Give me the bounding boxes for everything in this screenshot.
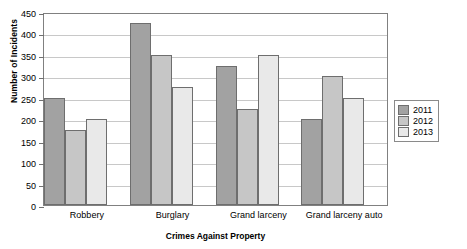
bar-2011-grand-larceny-auto[interactable]	[301, 119, 322, 205]
y-axis-tick-label: 50	[26, 181, 36, 191]
legend-swatch-icon	[398, 105, 409, 115]
bar-2011-grand-larceny[interactable]	[216, 66, 237, 205]
y-axis-tick-label: 450	[21, 9, 36, 19]
x-axis-category-label: Robbery	[44, 210, 130, 220]
bar-chart: Number of Incidents 05010015020025030035…	[0, 0, 467, 249]
y-axis-tick	[39, 207, 44, 208]
y-axis-tick-label: 300	[21, 73, 36, 83]
y-axis-tick-label: 200	[21, 116, 36, 126]
bar-2013-grand-larceny[interactable]	[258, 55, 279, 205]
bar-2012-grand-larceny-auto[interactable]	[322, 76, 343, 205]
y-axis-tick-label: 0	[31, 202, 36, 212]
legend-item-2013[interactable]: 2013	[398, 127, 433, 137]
bar-2012-grand-larceny[interactable]	[237, 109, 258, 206]
bar-2013-grand-larceny-auto[interactable]	[343, 98, 364, 205]
bar-group: Grand larceny	[216, 14, 302, 205]
legend-item-2012[interactable]: 2012	[398, 116, 433, 126]
bar-2012-robbery[interactable]	[65, 130, 86, 205]
y-axis-tick-label: 100	[21, 159, 36, 169]
bar-2013-robbery[interactable]	[86, 119, 107, 205]
bar-2011-robbery[interactable]	[44, 98, 65, 205]
bar-group: Robbery	[44, 14, 130, 205]
x-axis-category-label: Burglary	[130, 210, 216, 220]
bar-2012-burglary[interactable]	[151, 55, 172, 205]
legend-swatch-icon	[398, 127, 409, 137]
bar-groups: RobberyBurglaryGrand larcenyGrand larcen…	[44, 14, 387, 205]
legend-swatch-icon	[398, 116, 409, 126]
chart-title	[0, 0, 467, 3]
y-axis-tick-label: 400	[21, 30, 36, 40]
bar-group: Burglary	[130, 14, 216, 205]
x-axis-category-label: Grand larceny auto	[301, 210, 387, 220]
y-axis-tick-label: 250	[21, 95, 36, 105]
legend-label: 2011	[413, 105, 432, 115]
y-axis-tick-label: 150	[21, 138, 36, 148]
x-axis-title: Crimes Against Property	[43, 231, 388, 241]
y-axis-tick-label: 350	[21, 52, 36, 62]
legend: 201120122013	[394, 100, 439, 142]
bar-2013-burglary[interactable]	[172, 87, 193, 205]
plot-area: 050100150200250300350400450 RobberyBurgl…	[43, 13, 388, 206]
legend-label: 2012	[413, 116, 433, 126]
bar-2011-burglary[interactable]	[130, 23, 151, 205]
legend-label: 2013	[413, 127, 433, 137]
x-axis-category-label: Grand larceny	[216, 210, 302, 220]
bar-group: Grand larceny auto	[301, 14, 387, 205]
legend-item-2011[interactable]: 2011	[398, 105, 433, 115]
y-axis-title: Number of Incidents	[9, 1, 19, 121]
